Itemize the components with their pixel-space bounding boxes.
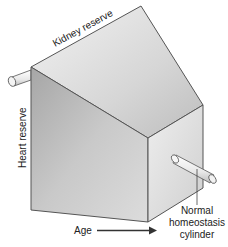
cylinder-caption-line3: cylinder [180, 229, 215, 240]
age-arrow-icon [97, 227, 157, 235]
cylinder-caption-line1: Normal [181, 205, 213, 216]
age-label: Age [74, 225, 92, 236]
cylinder-caption-line2: homeostasis [169, 217, 225, 228]
left-cylinder-stub [7, 70, 31, 87]
homeostasis-block-diagram: Kidney reserve Heart reserve Age Normal … [0, 0, 228, 247]
heart-reserve-label: Heart reserve [17, 107, 28, 168]
